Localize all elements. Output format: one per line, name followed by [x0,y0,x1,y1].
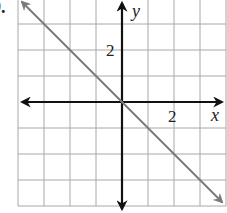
x-tick-label-2: 2 [168,108,177,125]
problem-number: 9. [0,0,6,16]
y-tick-label-2: 2 [106,42,115,59]
coordinate-graph: 9. y 2 2 x [0,0,227,213]
graph-canvas [0,0,227,213]
x-axis-label: x [211,106,219,124]
y-axis-label: y [132,2,140,20]
